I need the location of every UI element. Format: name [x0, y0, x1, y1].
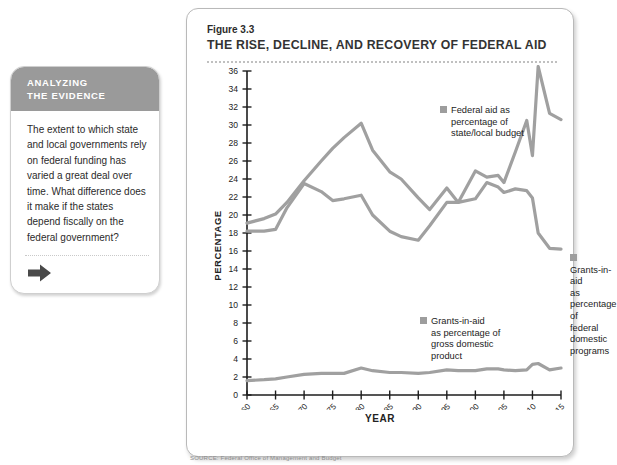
x-axis-tick-label: 1990 — [404, 402, 424, 410]
x-axis-tick-label: 2010 — [519, 402, 539, 410]
figure-number: Figure 3.3 — [207, 24, 254, 35]
legend-text-line: programs — [570, 346, 617, 358]
callout-header-line2: THE EVIDENCE — [27, 89, 159, 102]
x-axis-tick-label: 2000 — [462, 402, 482, 410]
y-axis-tick-label: 36 — [228, 66, 238, 76]
y-axis-tick-label: 12 — [228, 282, 238, 292]
legend-item-federal-domestic-programs: Grants-in-aidas percentage offederal dom… — [570, 253, 617, 357]
y-axis-tick-label: 28 — [228, 138, 238, 148]
x-axis-tick-label: 1980 — [347, 402, 367, 410]
legend-swatch-icon — [570, 254, 577, 261]
x-axis-tick-label: 1975 — [319, 402, 339, 410]
y-axis-tick-label: 22 — [228, 192, 238, 202]
y-axis-tick-label: 30 — [228, 120, 238, 130]
x-axis-tick-label: 1965 — [262, 402, 282, 410]
legend-text-line: Grants-in-aid — [431, 316, 500, 328]
figure-title: THE RISE, DECLINE, AND RECOVERY OF FEDER… — [207, 38, 547, 52]
y-axis-tick-label: 6 — [233, 336, 238, 346]
y-axis-tick-label: 34 — [228, 84, 238, 94]
legend-text-line: Grants-in-aid — [570, 265, 617, 288]
callout-question: The extent to which state and local gove… — [11, 111, 159, 251]
legend-text-line: as percentage of — [431, 328, 500, 340]
legend-swatch-icon — [420, 317, 427, 324]
y-axis-tick-label: 10 — [228, 300, 238, 310]
y-axis-tick-label: 16 — [228, 246, 238, 256]
figure-card: Figure 3.3 THE RISE, DECLINE, AND RECOVE… — [186, 8, 574, 457]
legend-text-line: as percentage of — [570, 288, 617, 323]
chart-series-line — [247, 364, 561, 381]
x-axis-tick-label: 1995 — [433, 402, 453, 410]
callout-header: ANALYZING THE EVIDENCE — [11, 67, 159, 111]
y-axis-tick-label: 2 — [233, 372, 238, 382]
x-axis-tick-label: 1960 — [233, 402, 253, 410]
callout-footer — [11, 256, 159, 293]
y-axis-tick-label: 14 — [228, 264, 238, 274]
title-divider — [207, 61, 557, 63]
legend-item-state-local-budget: Federal aid aspercentage ofstate/local b… — [440, 105, 524, 140]
source-note: SOURCE: Federal Office of Management and… — [190, 455, 342, 461]
y-axis-tick-label: 24 — [228, 174, 238, 184]
legend-text-line: Federal aid as — [451, 105, 524, 117]
analyzing-the-evidence-callout: ANALYZING THE EVIDENCE The extent to whi… — [10, 66, 160, 294]
legend-text-line: federal domestic — [570, 323, 617, 346]
x-axis-tick-label: 1970 — [290, 402, 310, 410]
y-axis-tick-label: 18 — [228, 228, 238, 238]
legend-text-line: state/local budget — [451, 128, 524, 140]
y-axis-tick-label: 32 — [228, 102, 238, 112]
arrow-right-icon[interactable] — [27, 263, 53, 283]
legend-swatch-icon — [440, 106, 447, 113]
x-axis-tick-label: 2005 — [490, 402, 510, 410]
legend-text-line: product — [431, 351, 500, 363]
y-axis-tick-label: 4 — [233, 354, 238, 364]
x-axis-tick-label: 1985 — [376, 402, 396, 410]
x-axis-label: YEAR — [187, 413, 573, 424]
y-axis-tick-label: 20 — [228, 210, 238, 220]
y-axis-tick-label: 0 — [233, 390, 238, 400]
legend-text-line: percentage of — [451, 117, 524, 129]
legend-item-gross-domestic-product: Grants-in-aidas percentage ofgross domes… — [420, 316, 500, 362]
y-axis-tick-label: 8 — [233, 318, 238, 328]
callout-header-line1: ANALYZING — [27, 76, 159, 89]
legend-text-line: gross domestic — [431, 339, 500, 351]
y-axis-tick-label: 26 — [228, 156, 238, 166]
x-axis-tick-label: 2015 — [547, 402, 567, 410]
